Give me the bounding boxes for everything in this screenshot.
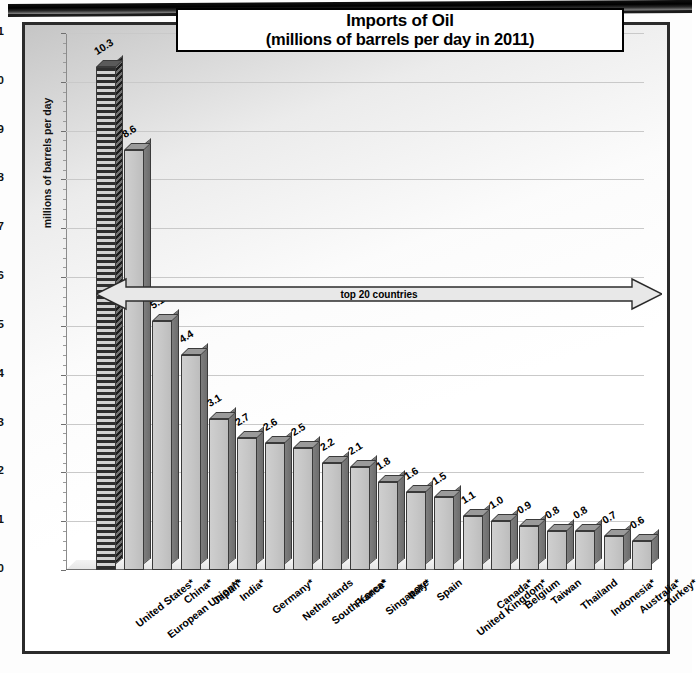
y-axis-tick: [61, 472, 66, 473]
y-axis-minor-tick: [63, 502, 66, 503]
y-axis-tick-label: 11: [0, 25, 4, 37]
top-20-countries-annotation: top 20 countries: [96, 274, 662, 314]
bar-16[interactable]: [547, 531, 567, 570]
bar-2[interactable]: [152, 321, 172, 570]
y-axis-minor-tick: [63, 101, 66, 102]
bar-3[interactable]: [181, 355, 201, 570]
bar-side: [229, 407, 236, 564]
bar-13[interactable]: [463, 516, 483, 570]
bar-5[interactable]: [237, 438, 257, 570]
bar-front: [378, 482, 398, 570]
y-axis-tick: [61, 570, 66, 571]
bar-value-label: 4.4: [176, 327, 195, 345]
y-axis-minor-tick: [63, 560, 66, 561]
annotation-label: top 20 countries: [96, 274, 662, 314]
bar-6[interactable]: [265, 443, 285, 570]
bar-front: [293, 448, 313, 570]
y-axis-minor-tick: [63, 463, 66, 464]
y-axis-tick: [61, 521, 66, 522]
y-axis-minor-tick: [63, 541, 66, 542]
bar-front: [575, 531, 595, 570]
bar-value-label: 1.1: [458, 488, 477, 506]
y-axis-tick: [61, 33, 66, 34]
bar-front: [491, 521, 511, 570]
x-axis-labels: United States*European Union**China*Japa…: [66, 572, 666, 672]
bar-9[interactable]: [350, 467, 370, 570]
y-axis-tick: [61, 326, 66, 327]
y-axis-tick: [61, 424, 66, 425]
y-axis-minor-tick: [63, 267, 66, 268]
bar-1[interactable]: [124, 150, 144, 570]
y-axis-minor-tick: [63, 492, 66, 493]
bar-19[interactable]: [632, 541, 652, 570]
bar-12[interactable]: [434, 497, 454, 570]
bar-front: [604, 536, 624, 570]
y-axis-minor-tick: [63, 170, 66, 171]
bar-10[interactable]: [378, 482, 398, 570]
y-axis-minor-tick: [63, 443, 66, 444]
y-axis-tick-label: 5: [0, 318, 4, 330]
bar-side: [313, 436, 320, 564]
gridline: [66, 82, 644, 83]
y-axis-minor-tick: [63, 43, 66, 44]
y-axis-minor-tick: [63, 111, 66, 112]
bar-side: [144, 138, 151, 564]
y-axis-tick-label: 2: [0, 464, 4, 476]
y-axis-minor-tick: [63, 287, 66, 288]
bar-front: [181, 355, 201, 570]
y-axis-minor-tick: [63, 365, 66, 366]
bar-7[interactable]: [293, 448, 313, 570]
bar-front: [519, 526, 539, 570]
y-axis-minor-tick: [63, 140, 66, 141]
bar-0[interactable]: [96, 67, 116, 570]
y-axis-tick-label: 1: [0, 513, 4, 525]
bar-4[interactable]: [209, 419, 229, 570]
bar-front: [632, 541, 652, 570]
x-axis-label: United Kingdom*: [474, 576, 549, 638]
bar-front: [350, 467, 370, 570]
bar-front: [124, 150, 144, 570]
bar-15[interactable]: [519, 526, 539, 570]
y-axis-tick-label: 9: [0, 123, 4, 135]
y-axis-minor-tick: [63, 297, 66, 298]
y-axis-tick: [61, 131, 66, 132]
y-axis-tick-label: 4: [0, 367, 4, 379]
y-axis-minor-tick: [63, 189, 66, 190]
y-axis-minor-tick: [63, 199, 66, 200]
y-axis-tick: [61, 179, 66, 180]
bar-14[interactable]: [491, 521, 511, 570]
bar-front: [237, 438, 257, 570]
bar-value-label: 2.2: [317, 435, 336, 453]
y-axis-minor-tick: [63, 453, 66, 454]
bar-front: [96, 67, 116, 570]
bar-18[interactable]: [604, 536, 624, 570]
x-axis-label: France*: [352, 576, 390, 609]
y-axis-minor-tick: [63, 306, 66, 307]
bar-11[interactable]: [406, 492, 426, 570]
bar-front: [265, 443, 285, 570]
y-axis-minor-tick: [63, 394, 66, 395]
y-axis-minor-tick: [63, 550, 66, 551]
bar-side: [172, 309, 179, 564]
y-axis-minor-tick: [63, 336, 66, 337]
y-axis-minor-tick: [63, 238, 66, 239]
y-axis-minor-tick: [63, 531, 66, 532]
bar-8[interactable]: [322, 463, 342, 570]
y-axis-tick-label: 3: [0, 416, 4, 428]
y-axis-tick: [61, 375, 66, 376]
y-axis-minor-tick: [63, 121, 66, 122]
y-axis-minor-tick: [63, 355, 66, 356]
y-axis-minor-tick: [63, 482, 66, 483]
bar-17[interactable]: [575, 531, 595, 570]
bar-side: [342, 451, 349, 564]
y-axis-tick-label: 8: [0, 171, 4, 183]
x-axis-label: Spain: [434, 576, 464, 603]
y-axis-minor-tick: [63, 345, 66, 346]
y-axis-minor-tick: [63, 160, 66, 161]
y-axis-minor-tick: [63, 150, 66, 151]
y-axis-minor-tick: [63, 72, 66, 73]
y-axis-tick-label: 6: [0, 269, 4, 281]
y-axis-minor-tick: [63, 209, 66, 210]
chart-title-box: Imports of Oil (millions of barrels per …: [176, 8, 624, 52]
chart-subtitle: (millions of barrels per day in 2011): [266, 30, 535, 49]
